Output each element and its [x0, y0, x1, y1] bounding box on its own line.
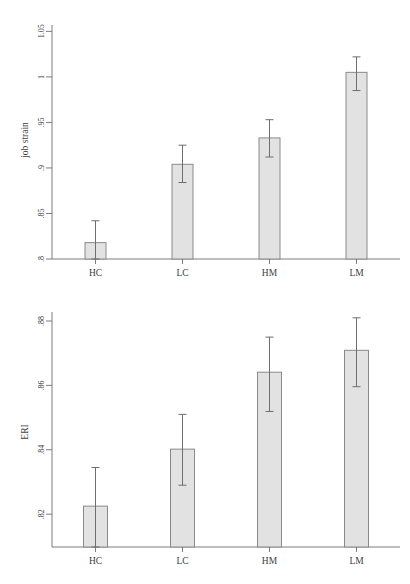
x-axis-label-lc: LC — [176, 268, 188, 278]
x-axis-labels: HCLCHMLM — [89, 259, 364, 278]
y-tick-label: 1.05 — [37, 24, 46, 38]
y-tick-label: .84 — [37, 445, 46, 455]
x-axis-label-lm: LM — [349, 556, 364, 566]
x-axis-label-hm: HM — [262, 268, 278, 278]
y-axis-title-group: ERI — [20, 424, 30, 439]
x-axis-label-hm: HM — [262, 556, 278, 566]
x-axis-label-hc: HC — [89, 268, 102, 278]
chart-job-strain-canvas: job strain .8.85.9.9511.05 HCLCHMLM — [0, 0, 410, 292]
x-axis-label-lc: LC — [176, 556, 188, 566]
y-tick-label: .86 — [37, 380, 46, 390]
y-tick-label: 1 — [37, 75, 46, 79]
y-axis-title-group: job strain — [20, 122, 30, 159]
y-tick-label: .85 — [37, 208, 46, 218]
chart-eri-canvas: ERI .82.84.86.88 HCLCHMLM — [0, 292, 410, 584]
x-axis-label-hc: HC — [89, 556, 102, 566]
figure-page: job strain .8.85.9.9511.05 HCLCHMLM ERI … — [0, 0, 410, 584]
chart-eri: ERI .82.84.86.88 HCLCHMLM — [0, 292, 410, 584]
y-axis-title: ERI — [20, 424, 30, 439]
chart-job-strain: job strain .8.85.9.9511.05 HCLCHMLM — [0, 0, 410, 292]
x-axis-label-lm: LM — [349, 268, 364, 278]
y-tick-label: .9 — [37, 165, 46, 171]
x-axis-labels: HCLCHMLM — [89, 547, 364, 566]
bar-lm — [346, 72, 367, 259]
bars-group — [84, 318, 369, 547]
y-axis-title: job strain — [20, 122, 30, 159]
y-tick-label: .95 — [37, 117, 46, 127]
y-tick-label: .8 — [37, 256, 46, 262]
y-tick-label: .88 — [37, 316, 46, 326]
bars-group — [85, 57, 367, 259]
y-tick-label: .82 — [37, 509, 46, 519]
y-axis-ticks: .8.85.9.9511.05 — [37, 24, 52, 262]
y-axis-ticks: .82.84.86.88 — [37, 316, 52, 519]
